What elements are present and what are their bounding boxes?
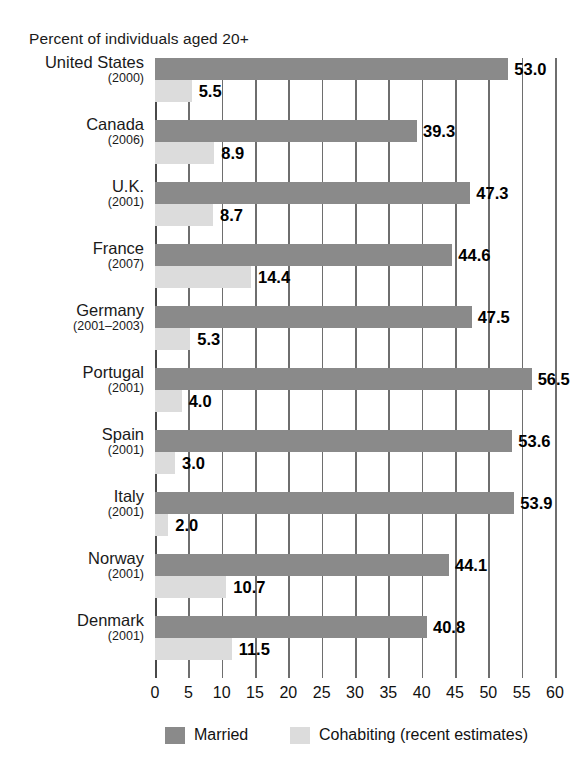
country-name: Spain (102, 426, 144, 443)
bar-cohabiting (155, 638, 232, 660)
category-label: United States(2000) (45, 54, 144, 85)
legend-label: Married (194, 726, 248, 744)
x-tick-15: 15 (246, 684, 264, 702)
x-tick-25: 25 (313, 684, 331, 702)
chart-title: Percent of individuals aged 20+ (29, 30, 249, 48)
bar-married (155, 182, 470, 204)
bar-value-cohabiting: 5.3 (197, 331, 220, 348)
category-label: France(2007) (93, 240, 144, 271)
bar-value-married: 53.9 (520, 495, 552, 512)
country-year: (2000) (45, 72, 144, 85)
bar-value-married: 44.6 (458, 247, 490, 264)
bar-value-cohabiting: 2.0 (175, 517, 198, 534)
country-year: (2001) (102, 444, 144, 457)
legend-item-married: Married (165, 726, 248, 744)
bar-married (155, 244, 452, 266)
bar-cohabiting (155, 576, 226, 598)
country-name: France (93, 240, 144, 257)
bar-value-married: 44.1 (455, 557, 487, 574)
country-year: (2001) (88, 568, 144, 581)
country-name: Germany (73, 302, 144, 319)
bar-married (155, 554, 449, 576)
x-axis-tick-labels: 051015202530354045505560 (0, 684, 579, 706)
x-tick-35: 35 (379, 684, 397, 702)
category-label: Portugal(2001) (83, 364, 144, 395)
bar-value-cohabiting: 10.7 (233, 579, 265, 596)
bar-married (155, 58, 508, 80)
bar-cohabiting (155, 266, 251, 288)
bar-married (155, 368, 532, 390)
bar-married (155, 306, 472, 328)
bar-cohabiting (155, 452, 175, 474)
x-tick-5: 5 (184, 684, 193, 702)
bar-value-cohabiting: 5.5 (199, 83, 222, 100)
bar-value-cohabiting: 11.5 (239, 641, 270, 658)
bar-value-cohabiting: 8.7 (220, 207, 243, 224)
category-label: Spain(2001) (102, 426, 144, 457)
bar-cohabiting (155, 390, 182, 412)
bar-value-cohabiting: 4.0 (189, 393, 212, 410)
category-label: Canada(2006) (86, 116, 144, 147)
bar-value-married: 40.8 (433, 619, 465, 636)
country-name: Portugal (83, 364, 144, 381)
category-label: Germany(2001–2003) (73, 302, 144, 333)
category-label: Italy(2001) (108, 488, 144, 519)
bar-value-married: 47.5 (478, 309, 510, 326)
plot-area: 53.05.539.38.947.38.744.614.447.55.356.5… (155, 58, 555, 678)
bar-value-cohabiting: 8.9 (221, 145, 244, 162)
category-label: U.K.(2001) (108, 178, 144, 209)
x-tick-0: 0 (151, 684, 160, 702)
country-name: U.K. (108, 178, 144, 195)
bar-cohabiting (155, 204, 213, 226)
x-tick-30: 30 (346, 684, 364, 702)
bar-value-married: 56.5 (538, 371, 570, 388)
bar-cohabiting (155, 142, 214, 164)
country-year: (2001) (83, 382, 144, 395)
bar-value-cohabiting: 14.4 (258, 269, 290, 286)
x-tick-40: 40 (413, 684, 431, 702)
bar-cohabiting (155, 80, 192, 102)
bar-married (155, 616, 427, 638)
country-year: (2001) (108, 506, 144, 519)
bar-value-married: 53.0 (514, 61, 546, 78)
country-name: Denmark (77, 612, 144, 629)
x-tick-60: 60 (546, 684, 564, 702)
bar-value-married: 53.6 (518, 433, 550, 450)
x-tick-50: 50 (479, 684, 497, 702)
country-year: (2001) (108, 196, 144, 209)
x-tick-55: 55 (513, 684, 531, 702)
bar-value-married: 39.3 (423, 123, 455, 140)
bar-value-married: 47.3 (476, 185, 508, 202)
bar-married (155, 120, 417, 142)
country-year: (2001) (77, 630, 144, 643)
chart-legend: MarriedCohabiting (recent estimates) (0, 726, 579, 752)
x-tick-20: 20 (279, 684, 297, 702)
x-tick-10: 10 (213, 684, 231, 702)
bar-value-cohabiting: 3.0 (182, 455, 205, 472)
category-label-column: United States(2000)Canada(2006)U.K.(2001… (0, 58, 150, 678)
country-year: (2001–2003) (73, 320, 144, 333)
legend-swatch-cohab (290, 727, 310, 744)
category-label: Norway(2001) (88, 550, 144, 581)
bar-married (155, 430, 512, 452)
country-year: (2007) (93, 258, 144, 271)
bar-married (155, 492, 514, 514)
bar-cohabiting (155, 514, 168, 536)
chart-container: Percent of individuals aged 20+ United S… (0, 0, 579, 765)
country-name: Norway (88, 550, 144, 567)
x-tick-45: 45 (446, 684, 464, 702)
country-name: Canada (86, 116, 144, 133)
country-year: (2006) (86, 134, 144, 147)
country-name: United States (45, 54, 144, 71)
legend-swatch-married (165, 727, 185, 744)
legend-item-cohab: Cohabiting (recent estimates) (290, 726, 528, 744)
legend-label: Cohabiting (recent estimates) (319, 726, 528, 744)
bar-cohabiting (155, 328, 190, 350)
category-label: Denmark(2001) (77, 612, 144, 643)
gridline-60 (555, 58, 557, 678)
country-name: Italy (108, 488, 144, 505)
